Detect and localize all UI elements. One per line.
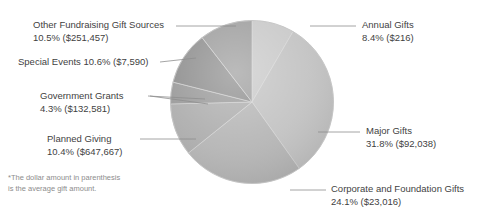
pie-chart-graphic — [170, 20, 334, 184]
label-other-fundraising-title: Other Fundraising Gift Sources — [33, 18, 164, 31]
footnote-line-2: is the average gift amount. — [8, 183, 120, 194]
footnote-line-1: *The dollar amount in parenthesis — [8, 172, 120, 183]
label-corporate-and-foundation-gifts: Corporate and Foundation Gifts 24.1% ($2… — [331, 182, 464, 208]
label-annual-gifts-value: 8.4% ($216) — [362, 31, 414, 44]
label-planned-giving-title: Planned Giving — [47, 132, 123, 145]
label-special-events-text: Special Events 10.6% ($7,590) — [18, 55, 148, 68]
label-major-gifts-value: 31.8% ($92,038) — [366, 137, 436, 150]
label-corporate-foundation-title: Corporate and Foundation Gifts — [331, 182, 464, 195]
chart-footnote: *The dollar amount in parenthesis is the… — [8, 172, 120, 194]
label-government-grants: Government Grants 4.3% ($132,581) — [40, 89, 123, 115]
label-government-grants-value: 4.3% ($132,581) — [40, 102, 123, 115]
label-annual-gifts-title: Annual Gifts — [362, 18, 414, 31]
label-government-grants-title: Government Grants — [40, 89, 123, 102]
label-major-gifts: Major Gifts 31.8% ($92,038) — [366, 124, 436, 150]
label-other-fundraising-value: 10.5% ($251,457) — [33, 31, 164, 44]
label-annual-gifts: Annual Gifts 8.4% ($216) — [362, 18, 414, 44]
label-other-fundraising-gift-sources: Other Fundraising Gift Sources 10.5% ($2… — [33, 18, 164, 44]
pie-chart-figure: Other Fundraising Gift Sources 10.5% ($2… — [0, 0, 492, 224]
label-planned-giving: Planned Giving 10.4% ($647,667) — [47, 132, 123, 158]
pie-svg — [170, 20, 334, 184]
label-planned-giving-value: 10.4% ($647,667) — [47, 145, 123, 158]
label-special-events: Special Events 10.6% ($7,590) — [18, 55, 148, 68]
label-corporate-foundation-value: 24.1% ($23,016) — [331, 195, 464, 208]
pie-sheen-overlay — [171, 21, 334, 184]
label-major-gifts-title: Major Gifts — [366, 124, 436, 137]
